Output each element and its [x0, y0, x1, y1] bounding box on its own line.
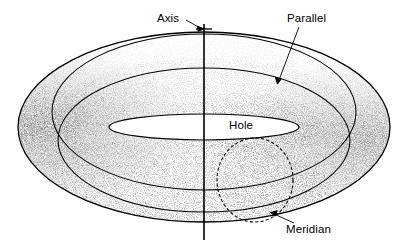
meridian-leader-line — [274, 214, 294, 223]
torus-diagram-canvas: Axis Parallel Hole Meridian — [0, 0, 409, 250]
axis-leader-arrowhead — [198, 26, 205, 31]
label-parallel: Parallel — [287, 13, 326, 25]
torus-illustration — [0, 0, 409, 250]
label-axis: Axis — [157, 13, 179, 25]
label-hole: Hole — [229, 120, 253, 132]
torus-shading — [10, 32, 390, 231]
label-meridian: Meridian — [286, 224, 331, 236]
